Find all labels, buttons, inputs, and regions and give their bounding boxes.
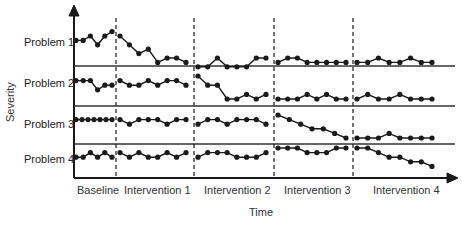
- data-point: [234, 96, 239, 101]
- row-label-problem-1: Problem 1: [24, 36, 74, 48]
- data-point: [387, 60, 392, 65]
- data-point: [254, 155, 259, 160]
- data-point: [73, 78, 78, 83]
- data-point: [244, 155, 249, 160]
- data-point: [109, 83, 114, 88]
- data-point: [136, 150, 141, 155]
- data-point: [334, 145, 339, 150]
- data-point: [376, 135, 381, 140]
- data-point: [314, 150, 319, 155]
- data-point: [263, 55, 268, 60]
- data-point: [97, 117, 102, 122]
- x-axis-arrow-icon: [447, 173, 458, 183]
- data-point: [305, 150, 310, 155]
- data-point: [419, 159, 424, 164]
- data-point: [314, 60, 319, 65]
- data-point: [205, 150, 210, 155]
- data-point: [314, 96, 319, 101]
- data-point: [376, 55, 381, 60]
- y-axis-arrow-icon: [69, 5, 79, 16]
- data-point: [324, 92, 329, 97]
- data-point: [376, 96, 381, 101]
- series-2: [73, 73, 434, 101]
- data-point: [195, 155, 200, 160]
- data-point: [387, 96, 392, 101]
- data-point: [165, 122, 170, 127]
- data-point: [298, 122, 303, 127]
- data-point: [136, 51, 141, 56]
- data-point: [343, 60, 348, 65]
- x-axis-title: Time: [249, 206, 273, 218]
- data-point: [127, 42, 132, 47]
- data-point: [81, 78, 86, 83]
- data-point: [146, 78, 151, 83]
- data-point: [215, 83, 220, 88]
- data-point: [295, 145, 300, 150]
- phase-label-intervention-1: Intervention 1: [124, 184, 191, 196]
- data-point: [91, 117, 96, 122]
- data-point: [305, 92, 310, 97]
- data-point: [354, 96, 359, 101]
- data-point: [254, 96, 259, 101]
- data-point: [117, 33, 122, 38]
- data-point: [324, 60, 329, 65]
- data-point: [102, 83, 107, 88]
- data-point: [205, 83, 210, 88]
- data-point: [174, 117, 179, 122]
- data-series: [73, 29, 434, 169]
- data-point: [174, 155, 179, 160]
- data-point: [81, 155, 86, 160]
- data-point: [88, 78, 93, 83]
- data-point: [332, 131, 337, 136]
- data-point: [263, 92, 268, 97]
- data-point: [295, 96, 300, 101]
- data-point: [88, 33, 93, 38]
- data-point: [205, 117, 210, 122]
- data-point: [127, 155, 132, 160]
- data-point: [109, 117, 114, 122]
- data-point: [215, 150, 220, 155]
- data-point: [225, 122, 230, 127]
- row-label-problem-3: Problem 3: [24, 118, 74, 130]
- data-point: [234, 64, 239, 69]
- data-point: [387, 131, 392, 136]
- data-point: [85, 117, 90, 122]
- row-label-problem-2: Problem 2: [24, 77, 74, 89]
- data-point: [225, 64, 230, 69]
- data-point: [275, 112, 280, 117]
- data-point: [254, 55, 259, 60]
- row-separators: [74, 66, 455, 144]
- data-point: [174, 78, 179, 83]
- series-line: [76, 32, 112, 45]
- data-point: [419, 135, 424, 140]
- data-point: [334, 96, 339, 101]
- data-point: [109, 155, 114, 160]
- data-point: [305, 60, 310, 65]
- data-point: [263, 150, 268, 155]
- data-point: [397, 92, 402, 97]
- data-point: [275, 96, 280, 101]
- row-label-problem-4: Problem 4: [24, 153, 74, 165]
- data-point: [165, 55, 170, 60]
- data-point: [263, 122, 268, 127]
- data-point: [155, 117, 160, 122]
- data-point: [429, 96, 434, 101]
- phase-label-intervention-2: Intervention 2: [204, 184, 271, 196]
- series-1: [73, 29, 434, 69]
- data-point: [419, 96, 424, 101]
- data-point: [429, 60, 434, 65]
- data-point: [354, 60, 359, 65]
- data-point: [117, 117, 122, 122]
- data-point: [334, 60, 339, 65]
- data-point: [183, 60, 188, 65]
- data-point: [408, 135, 413, 140]
- data-point: [365, 145, 370, 150]
- data-point: [155, 60, 160, 65]
- data-point: [324, 150, 329, 155]
- data-point: [102, 150, 107, 155]
- data-point: [127, 122, 132, 127]
- data-point: [365, 60, 370, 65]
- data-point: [343, 135, 348, 140]
- data-point: [215, 117, 220, 122]
- data-point: [287, 117, 292, 122]
